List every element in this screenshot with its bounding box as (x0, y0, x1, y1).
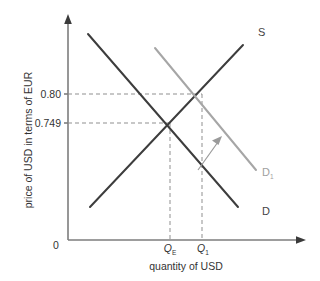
demand-shifted-curve-label: D1 (262, 166, 274, 180)
shift-arrow-line (198, 142, 218, 170)
supply-curve-label: S (258, 26, 265, 38)
x-axis-title: quantity of USD (149, 260, 223, 272)
q1-subscript: 1 (205, 249, 209, 256)
origin-label: 0 (53, 239, 59, 251)
x-axis-arrowhead (296, 236, 306, 244)
y-tick-label-0749: 0.749 (35, 117, 61, 129)
demand-curve-label: D (262, 205, 270, 217)
d1-subscript: 1 (270, 173, 274, 180)
chart-canvas: 0.80 0.749 0 QE Q1 S D D1 quantity of US… (0, 0, 320, 281)
qe-base: Q (164, 242, 172, 254)
supply-demand-chart: 0.80 0.749 0 QE Q1 S D D1 quantity of US… (0, 0, 320, 281)
x-tick-label-qe: QE (164, 242, 177, 256)
y-axis-title: price of USD in terms of EUR (22, 71, 34, 208)
qe-subscript: E (172, 249, 177, 256)
y-tick-label-080: 0.80 (41, 88, 62, 100)
d1-base: D (262, 166, 270, 178)
q1-base: Q (197, 242, 205, 254)
y-axis-arrowhead (64, 14, 72, 24)
x-tick-label-q1: Q1 (197, 242, 209, 256)
shift-arrow-head (212, 136, 222, 145)
